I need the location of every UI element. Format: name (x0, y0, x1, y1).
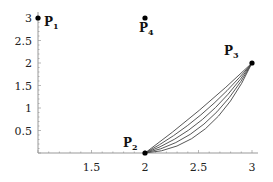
points: P1P2P3P4 (35, 15, 254, 156)
y-tick-label: 2.5 (15, 35, 33, 48)
point-P4-label: P4 (139, 21, 154, 37)
x-tick-label: 2 (142, 161, 149, 174)
bezier-curve (145, 63, 252, 153)
x-tick-label: 2.5 (190, 161, 208, 174)
bezier-curve (145, 63, 252, 153)
x-tick-label: 1.5 (83, 161, 101, 174)
y-tick-label: 1 (25, 102, 32, 115)
bezier-curve (145, 63, 252, 153)
point-P1-label: P1 (44, 15, 59, 31)
y-tick-label: 2 (25, 57, 32, 70)
point-P2-marker (142, 150, 147, 155)
y-tick-label: 3 (25, 12, 32, 25)
y-tick-label: 0.5 (15, 125, 33, 138)
point-P4-marker (142, 15, 147, 20)
x-tick-label: 3 (249, 161, 256, 174)
point-P3-marker (249, 60, 254, 65)
y-tick-label: 1.5 (15, 80, 33, 93)
bezier-curve (145, 63, 252, 153)
bezier-curve (145, 63, 252, 153)
point-P3-label: P3 (224, 44, 239, 60)
point-P2-label: P2 (123, 136, 138, 152)
point-P1-marker (35, 15, 40, 20)
curves (145, 63, 252, 153)
bezier-chart: 1.522.530.511.522.53 P1P2P3P4 (0, 0, 273, 182)
